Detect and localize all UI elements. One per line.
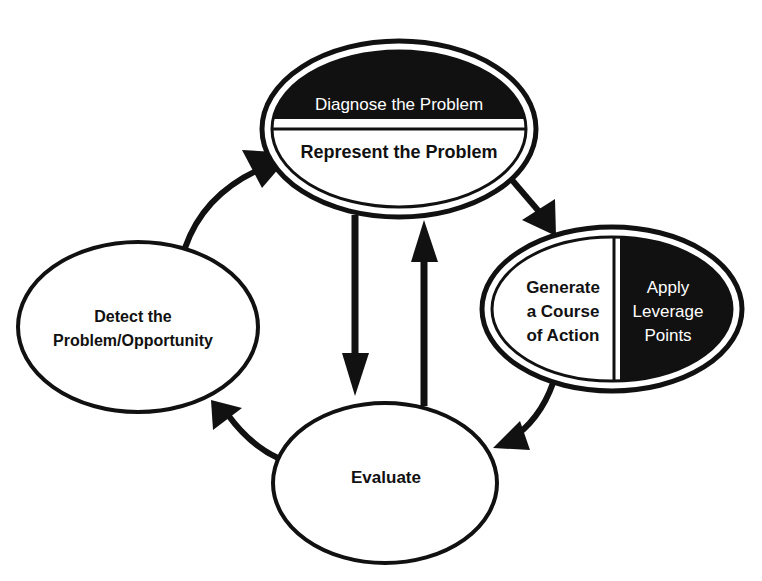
arrow-evaluate-to-detect (211, 400, 278, 458)
node-evaluate: Evaluate (273, 403, 497, 563)
node-detect: Detect the Problem/Opportunity (18, 242, 258, 412)
arrow-leverage-to-evaluate (493, 383, 553, 450)
represent-label: Represent the Problem (300, 142, 497, 162)
generate-label-1: Generate (526, 278, 600, 297)
cycle-diagram: Diagnose the Problem Represent the Probl… (0, 0, 762, 581)
arrow-diagnose-to-generate (512, 180, 556, 236)
diagram-svg: Diagnose the Problem Represent the Probl… (0, 0, 762, 581)
leverage-label-2: Leverage (633, 302, 704, 321)
generate-label-3: of Action (526, 326, 599, 345)
detect-label-1: Detect the (94, 308, 171, 325)
leverage-label-3: Points (644, 326, 691, 345)
arrow-diagnose-to-evaluate (342, 215, 369, 396)
diagnose-label: Diagnose the Problem (315, 95, 483, 114)
node-generate-leverage: Generate a Course of Action Apply Levera… (482, 227, 750, 391)
evaluate-label: Evaluate (351, 468, 421, 487)
detect-label-2: Problem/Opportunity (53, 332, 213, 349)
generate-label-2: a Course (527, 302, 600, 321)
leverage-label-1: Apply (647, 278, 690, 297)
node-diagnose-represent: Diagnose the Problem Represent the Probl… (260, 40, 540, 217)
arrow-evaluate-to-diagnose (411, 220, 438, 406)
